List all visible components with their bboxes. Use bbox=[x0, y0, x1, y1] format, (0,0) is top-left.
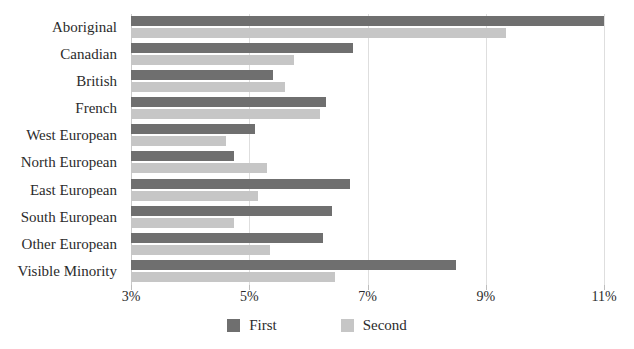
legend-swatch-icon bbox=[227, 319, 240, 332]
bar-second bbox=[131, 163, 267, 173]
bar-first bbox=[131, 124, 255, 134]
x-tick-label: 7% bbox=[358, 289, 377, 305]
category-label: South European bbox=[0, 204, 124, 231]
bar-second bbox=[131, 82, 285, 92]
category-label: Other European bbox=[0, 231, 124, 258]
bar-rows bbox=[131, 14, 604, 285]
grouped-bar-chart: AboriginalCanadianBritishFrenchWest Euro… bbox=[0, 0, 634, 349]
bar-first bbox=[131, 43, 353, 53]
x-tick-label: 11% bbox=[591, 289, 616, 305]
gridline-11pct bbox=[604, 14, 605, 285]
bar-first bbox=[131, 260, 456, 270]
category-label: East European bbox=[0, 177, 124, 204]
legend-item-first[interactable]: First bbox=[227, 317, 277, 334]
bar-row bbox=[131, 177, 604, 204]
bar-row bbox=[131, 258, 604, 285]
bar-row bbox=[131, 14, 604, 41]
legend-label: Second bbox=[363, 317, 407, 334]
bar-row bbox=[131, 41, 604, 68]
bar-row bbox=[131, 122, 604, 149]
x-tick-label: 5% bbox=[240, 289, 259, 305]
category-label: British bbox=[0, 68, 124, 95]
category-label: West European bbox=[0, 122, 124, 149]
category-label: North European bbox=[0, 149, 124, 176]
bar-second bbox=[131, 28, 506, 38]
bar-row bbox=[131, 231, 604, 258]
legend-item-second[interactable]: Second bbox=[341, 317, 407, 334]
bar-first bbox=[131, 179, 350, 189]
legend-swatch-icon bbox=[341, 319, 354, 332]
chart-legend: FirstSecond bbox=[0, 313, 634, 337]
bar-row bbox=[131, 204, 604, 231]
category-label: Aboriginal bbox=[0, 14, 124, 41]
category-label: French bbox=[0, 95, 124, 122]
x-tick-label: 9% bbox=[476, 289, 495, 305]
x-tick-label: 3% bbox=[122, 289, 141, 305]
bar-second bbox=[131, 55, 294, 65]
category-label: Visible Minority bbox=[0, 258, 124, 285]
bar-first bbox=[131, 206, 332, 216]
bar-first bbox=[131, 97, 326, 107]
bar-second bbox=[131, 272, 335, 282]
plot-area bbox=[131, 14, 604, 285]
bar-second bbox=[131, 109, 320, 119]
bar-second bbox=[131, 136, 226, 146]
category-label: Canadian bbox=[0, 41, 124, 68]
bar-second bbox=[131, 245, 270, 255]
legend-label: First bbox=[249, 317, 277, 334]
bar-row bbox=[131, 68, 604, 95]
bar-second bbox=[131, 191, 258, 201]
chart-title-cropped bbox=[430, 0, 610, 5]
bar-first bbox=[131, 151, 234, 161]
bar-second bbox=[131, 218, 234, 228]
category-axis-labels: AboriginalCanadianBritishFrenchWest Euro… bbox=[0, 14, 124, 285]
bar-first bbox=[131, 16, 604, 26]
bar-first bbox=[131, 70, 273, 80]
bar-row bbox=[131, 95, 604, 122]
bar-first bbox=[131, 233, 323, 243]
bar-row bbox=[131, 149, 604, 176]
x-axis: 3%5%7%9%11% bbox=[131, 285, 604, 311]
